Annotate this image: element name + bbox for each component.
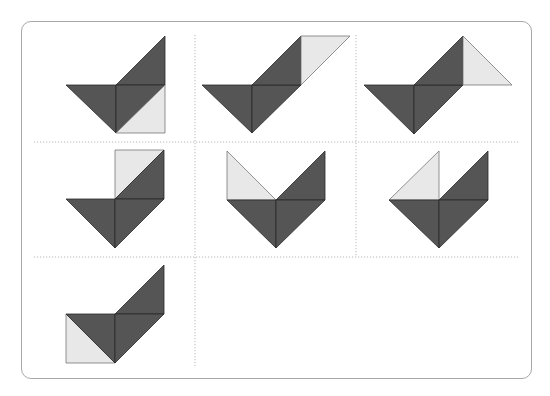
dark-triangle-piece [252,36,301,85]
dark-triangle-piece [66,85,116,133]
figure-2 [202,36,350,133]
dark-triangle-piece [115,314,164,363]
figure-7 [66,265,164,363]
dark-triangle-piece [116,36,165,85]
dark-triangle-piece [414,85,463,134]
figure-1 [66,36,165,133]
dark-triangle-piece [115,265,164,314]
dark-triangle-piece [439,151,488,200]
figures [66,36,512,363]
dark-triangle-piece [439,200,488,248]
dark-triangle-piece [227,200,276,248]
dark-triangle-piece [66,199,115,248]
figure-6 [389,151,488,248]
dark-triangle-piece [252,85,301,133]
light-triangle-piece [227,151,276,200]
dark-triangle-piece [276,151,325,200]
light-triangle-piece [301,36,350,85]
tangram-diagram [0,0,550,396]
light-triangle-piece [463,36,512,85]
dark-triangle-piece [202,85,252,133]
dark-triangle-piece [115,199,164,248]
figure-5 [227,151,325,248]
dark-triangle-piece [364,85,414,134]
dark-triangle-piece [414,36,463,85]
figure-3 [364,36,512,134]
dark-triangle-piece [276,200,325,248]
dark-triangle-piece [389,200,439,248]
light-triangle-piece [389,151,439,200]
figure-4 [66,150,164,248]
